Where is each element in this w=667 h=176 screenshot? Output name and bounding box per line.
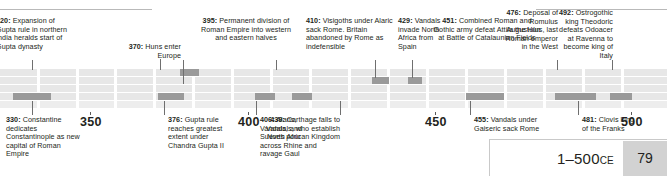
event-block[interactable] — [158, 93, 184, 100]
event-note-492[interactable]: 492: Ostrogothic king Theodoric defeats … — [552, 9, 613, 61]
event-block[interactable] — [292, 93, 312, 100]
grid-column-separator — [582, 69, 585, 110]
grid-column-separator — [114, 69, 117, 110]
event-text: Expansion of Gupta rule in northern Indi… — [0, 16, 67, 51]
grid-column-separator — [37, 69, 40, 110]
leader-line — [32, 60, 33, 70]
axis-tick-400: 400 — [238, 112, 260, 129]
event-block[interactable] — [610, 93, 632, 100]
grid-row — [0, 85, 667, 92]
grid-row — [0, 69, 667, 76]
event-note-330[interactable]: 330: Constantine dedicates Constantinopl… — [6, 116, 84, 159]
event-block[interactable] — [13, 93, 51, 100]
grid-column-separator — [76, 69, 79, 110]
axis-tick-label: 450 — [425, 115, 447, 129]
leader-line — [412, 60, 413, 78]
event-note-410[interactable]: 410: Visigoths under Alaric sack Rome. B… — [306, 17, 394, 51]
leader-line — [470, 101, 471, 115]
axis-tick-label: 400 — [238, 115, 260, 129]
leader-line — [612, 60, 613, 70]
event-note-370[interactable]: 370: Huns enter Europe — [108, 43, 181, 60]
axis-tick-label: 350 — [80, 115, 102, 129]
axis-tick-mark — [90, 112, 91, 115]
grid-row — [0, 101, 667, 108]
timeline-grid — [0, 69, 667, 110]
event-block[interactable] — [574, 93, 596, 100]
axis-tick-500: 500 — [621, 112, 643, 129]
timeline-band — [0, 69, 667, 110]
footer-range-value: 1–500 — [557, 150, 600, 167]
page-footer: 1–500CE 79 — [489, 139, 667, 176]
leader-line — [160, 59, 161, 70]
event-note-455[interactable]: 455: Vandals under Gaiseric sack Rome — [474, 116, 546, 133]
grid-row — [0, 77, 667, 84]
timeline-page: 320: Expansion of Gupta rule in northern… — [0, 0, 667, 176]
event-note-376[interactable]: 376: Gupta rule reaches greatest extent … — [168, 116, 235, 150]
leader-line — [32, 101, 33, 115]
event-year: 370 — [129, 42, 141, 51]
event-text: Huns enter Europe — [145, 42, 181, 60]
axis-tick-450: 450 — [425, 112, 447, 129]
leader-line — [183, 60, 184, 84]
grid-column-separator — [426, 69, 429, 110]
page-number: 79 — [637, 150, 653, 166]
grid-column-separator — [270, 69, 273, 110]
event-note-476[interactable]: 476: Deposal of Romulus Augustulus, last… — [500, 9, 558, 52]
event-note-395[interactable]: 395: Permanent division of Roman Empire … — [196, 17, 296, 43]
leader-line — [164, 101, 165, 115]
event-block[interactable] — [255, 93, 275, 100]
grid-column-separator — [387, 69, 390, 110]
top-rule-left — [0, 9, 152, 10]
axis-tick-350: 350 — [80, 112, 102, 129]
page-number-box: 79 — [623, 141, 667, 176]
leader-line — [557, 60, 558, 70]
grid-column-separator — [465, 69, 468, 110]
footer-range-label: 1–500CE — [557, 150, 623, 167]
axis-tick-mark — [631, 112, 632, 115]
leader-line — [340, 101, 341, 115]
event-block[interactable] — [408, 77, 422, 84]
leader-line — [375, 60, 376, 78]
grid-column-separator — [504, 69, 507, 110]
event-block[interactable] — [466, 93, 504, 100]
footer-era: CE — [600, 155, 614, 166]
grid-column-separator — [348, 69, 351, 110]
grid-column-separator — [153, 69, 156, 110]
event-year: 476 — [506, 8, 518, 17]
event-block[interactable] — [372, 77, 389, 84]
axis-tick-label: 500 — [621, 115, 643, 129]
event-note-320[interactable]: 320: Expansion of Gupta rule in northern… — [0, 17, 76, 51]
grid-column-separator — [543, 69, 546, 110]
event-text: Ostrogothic king Theodoric defeats Odoac… — [559, 8, 613, 60]
axis-tick-mark — [248, 112, 249, 115]
grid-column-separator — [621, 69, 624, 110]
leader-line — [578, 101, 579, 115]
grid-column-separator — [309, 69, 312, 110]
leader-line — [276, 60, 277, 70]
axis-tick-mark — [435, 112, 436, 115]
grid-column-separator — [231, 69, 234, 110]
event-note-439[interactable]: 439: Carthage falls to Vandals, who esta… — [258, 116, 340, 142]
